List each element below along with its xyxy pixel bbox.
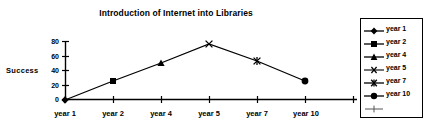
x-category-label: year 7 (246, 109, 268, 118)
legend-marker-diamond-icon (364, 23, 384, 35)
legend-marker-cross-icon (364, 62, 384, 74)
y-tick-label: 80 (51, 38, 59, 45)
data-point-year-10 (302, 78, 309, 85)
data-point-year-1 (61, 96, 68, 104)
data-line-series-1 (65, 44, 305, 100)
legend-item-year-7: year 7 (361, 74, 422, 87)
x-axis-category-labels: year 1 year 2 year 4 year 5 year 7 year … (54, 109, 319, 118)
legend-item-year-5: year 5 (361, 61, 422, 74)
legend-marker-tick-icon (364, 101, 384, 113)
legend-marker-square-icon (364, 36, 384, 48)
legend-label: year 4 (386, 50, 406, 59)
legend-item-year-4: year 4 (361, 48, 422, 61)
x-category-label: year 2 (102, 109, 124, 118)
data-point-year-4 (157, 60, 164, 66)
legend-label: year 7 (386, 76, 406, 85)
legend-item-unlabeled (361, 100, 422, 113)
y-tick-label: 60 (51, 53, 59, 60)
legend-marker-star-icon (364, 75, 384, 87)
legend-item-year-2: year 2 (361, 35, 422, 48)
y-tick-label: 40 (51, 67, 59, 74)
chart-figure: Introduction of Internet into Libraries … (0, 0, 427, 131)
y-axis-tick-labels: 80 60 40 20 0 (51, 38, 59, 103)
legend-marker-circle-icon (364, 88, 384, 100)
x-category-label: year 4 (150, 109, 173, 118)
data-point-year-5 (206, 41, 213, 48)
y-tick-label: 0 (55, 96, 59, 103)
data-point-year-2 (110, 78, 116, 84)
legend-label: year 10 (386, 89, 410, 98)
y-tick-label: 20 (51, 82, 59, 89)
legend-item-year-10: year 10 (361, 87, 422, 100)
legend-marker-triangle-icon (364, 49, 384, 61)
x-category-label: year 1 (54, 109, 76, 118)
legend-label: year 1 (386, 24, 406, 33)
x-category-label: year 10 (293, 109, 319, 118)
legend-label: year 5 (386, 63, 406, 72)
chart-legend: year 1 year 2 year 4 year 5 year 7 (360, 18, 423, 118)
legend-label: year 2 (386, 37, 406, 46)
legend-item-year-1: year 1 (361, 22, 422, 35)
data-point-year-7 (254, 57, 261, 65)
x-category-label: year 5 (198, 109, 220, 118)
data-point-markers (61, 41, 308, 104)
